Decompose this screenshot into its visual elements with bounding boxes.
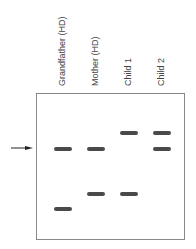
band-mother-row3 [87,192,105,196]
lane-label-child1: Child 1 [123,58,133,86]
lane-label-mother: Mother (HD) [90,36,100,86]
lane-label-child2: Child 2 [156,58,166,86]
lane-label-grandfather: Grandfather (HD) [57,16,67,86]
band-grandfather-row2 [54,147,72,151]
band-child1-row1 [120,131,138,135]
band-child2-row2 [153,147,171,151]
gel-box [36,93,185,240]
band-mother-row2 [87,147,105,151]
band-grandfather-row4 [54,207,72,211]
arrow-icon [11,146,33,150]
band-child1-row3 [120,192,138,196]
band-child2-row1 [153,131,171,135]
